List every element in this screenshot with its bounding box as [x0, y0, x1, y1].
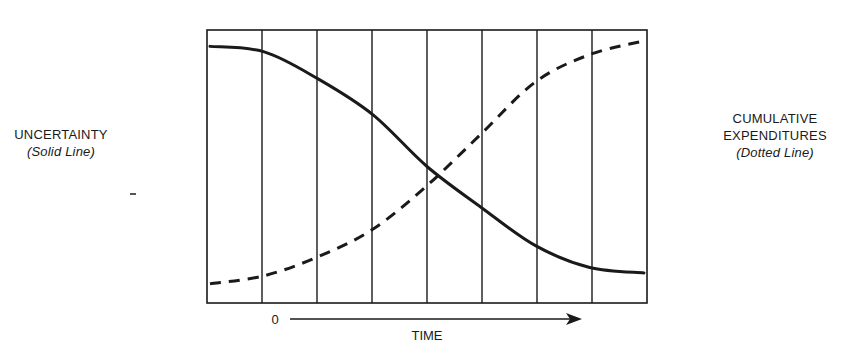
- stray-mark: [130, 193, 136, 195]
- uncertainty-expenditure-chart: 0 TIME: [0, 0, 855, 356]
- origin-label: 0: [271, 312, 278, 327]
- time-label: TIME: [411, 328, 442, 343]
